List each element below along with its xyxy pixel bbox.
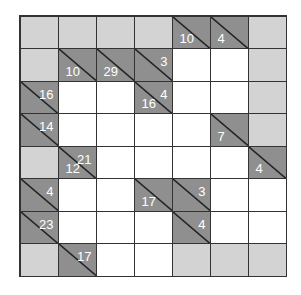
across-clue: 16 <box>39 88 53 101</box>
blocked-cell <box>210 243 249 277</box>
entry-cell[interactable] <box>134 211 173 245</box>
clue-cell: 3 <box>134 48 173 82</box>
blocked-cell <box>248 113 287 147</box>
entry-cell[interactable] <box>248 211 287 245</box>
clue-cell: 23 <box>20 211 59 245</box>
entry-cell[interactable] <box>96 146 135 180</box>
blocked-cell <box>248 81 287 115</box>
entry-cell[interactable] <box>96 211 135 245</box>
blocked-cell <box>20 243 59 277</box>
down-clue: 29 <box>104 65 118 78</box>
clue-cell: 1221 <box>58 146 97 180</box>
entry-cell[interactable] <box>134 243 173 277</box>
clue-cell: 17 <box>134 178 173 212</box>
clue-cell: 4 <box>248 146 287 180</box>
diagonal-divider <box>211 17 248 49</box>
clue-cell: 10 <box>172 16 211 50</box>
clue-cell: 4 <box>20 178 59 212</box>
blocked-cell <box>134 16 173 50</box>
down-clue: 10 <box>180 32 194 45</box>
clue-cell: 3 <box>172 178 211 212</box>
down-clue: 7 <box>218 130 225 143</box>
across-clue: 4 <box>198 218 205 231</box>
diagonal-divider <box>211 114 248 146</box>
entry-cell[interactable] <box>210 81 249 115</box>
entry-cell[interactable] <box>58 211 97 245</box>
clue-cell: 7 <box>210 113 249 147</box>
clue-cell: 29 <box>96 48 135 82</box>
entry-cell[interactable] <box>210 211 249 245</box>
diagonal-divider <box>249 147 286 179</box>
down-clue: 4 <box>218 32 225 45</box>
clue-cell: 4 <box>210 16 249 50</box>
entry-cell[interactable] <box>172 146 211 180</box>
across-clue: 4 <box>46 185 53 198</box>
blocked-cell <box>248 48 287 82</box>
across-clue: 14 <box>39 120 53 133</box>
entry-cell[interactable] <box>210 48 249 82</box>
blocked-cell <box>20 48 59 82</box>
clue-cell: 164 <box>134 81 173 115</box>
entry-cell[interactable] <box>58 81 97 115</box>
blocked-cell <box>20 146 59 180</box>
blocked-cell <box>172 243 211 277</box>
entry-cell[interactable] <box>96 243 135 277</box>
entry-cell[interactable] <box>210 146 249 180</box>
entry-cell[interactable] <box>172 113 211 147</box>
entry-cell[interactable] <box>134 146 173 180</box>
across-clue: 3 <box>198 185 205 198</box>
across-clue: 3 <box>160 55 167 68</box>
down-clue: 16 <box>142 97 156 110</box>
entry-cell[interactable] <box>96 81 135 115</box>
across-clue: 21 <box>77 153 91 166</box>
entry-cell[interactable] <box>96 178 135 212</box>
entry-cell[interactable] <box>210 178 249 212</box>
entry-cell[interactable] <box>96 113 135 147</box>
down-clue: 4 <box>256 162 263 175</box>
blocked-cell <box>248 16 287 50</box>
clue-cell: 17 <box>58 243 97 277</box>
entry-cell[interactable] <box>134 113 173 147</box>
blocked-cell <box>58 16 97 50</box>
blocked-cell <box>96 16 135 50</box>
entry-cell[interactable] <box>58 178 97 212</box>
clue-cell: 4 <box>172 211 211 245</box>
entry-cell[interactable] <box>172 81 211 115</box>
across-clue: 4 <box>160 88 167 101</box>
clue-cell: 14 <box>20 113 59 147</box>
blocked-cell <box>248 243 287 277</box>
blocked-cell <box>20 16 59 50</box>
entry-cell[interactable] <box>172 48 211 82</box>
across-clue: 17 <box>77 250 91 263</box>
clue-cell: 10 <box>58 48 97 82</box>
down-clue: 17 <box>142 195 156 208</box>
entry-cell[interactable] <box>248 178 287 212</box>
across-clue: 23 <box>39 218 53 231</box>
entry-cell[interactable] <box>58 113 97 147</box>
down-clue: 10 <box>66 65 80 78</box>
kakuro-grid: 104102931616414712214417323417 <box>19 15 287 277</box>
clue-cell: 16 <box>20 81 59 115</box>
